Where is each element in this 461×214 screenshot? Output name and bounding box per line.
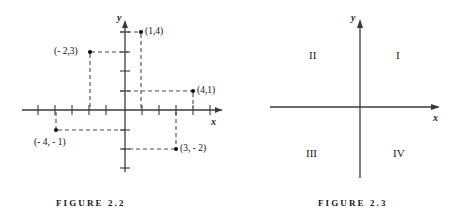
x-axis-label: x [433, 113, 438, 123]
figure-caption: FIGURE 2.3 [318, 198, 388, 208]
figure-caption: FIGURE 2.2 [56, 198, 126, 208]
quadrant-label-iii: III [306, 148, 317, 159]
quadrant-label-iv: IV [393, 148, 405, 159]
point-label-neg2-3: (- 2,3) [54, 47, 78, 57]
x-axis [270, 104, 440, 110]
y-axis-label: y [351, 13, 355, 23]
quadrant-label-ii: II [309, 50, 316, 61]
point-label-1-4: (1,4) [145, 27, 163, 37]
y-axis-label: y [117, 13, 121, 23]
x-axis-label: x [211, 117, 216, 127]
y-axis [357, 19, 363, 178]
data-point [191, 89, 195, 93]
data-point [54, 128, 58, 132]
axes-and-data-svg [0, 0, 230, 186]
point-label-4-1: (4,1) [197, 86, 215, 96]
data-point [139, 30, 143, 34]
coordinate-plane-with-points: x y (1,4) (- 2,3) (4,1) (- 4, - 1) (3, -… [0, 0, 230, 186]
data-point [174, 147, 178, 151]
point-label-3-neg2: (3, - 2) [180, 144, 206, 154]
figure-2-2-panel: x y (1,4) (- 2,3) (4,1) (- 4, - 1) (3, -… [0, 0, 230, 214]
figure-2-3-panel: x y I II III IV FIGURE 2.3 [230, 0, 461, 214]
quadrant-label-i: I [396, 50, 400, 61]
axes-svg [230, 0, 461, 186]
point-label-neg4-neg1: (- 4, - 1) [34, 138, 66, 148]
x-axis [22, 107, 222, 113]
coordinate-plane-quadrants: x y I II III IV [230, 0, 461, 186]
data-point [88, 50, 92, 54]
